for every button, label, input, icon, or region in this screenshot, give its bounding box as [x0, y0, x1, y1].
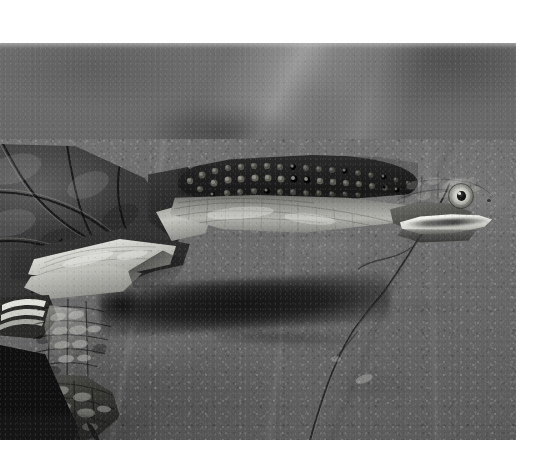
background-dark-blob-right	[330, 43, 516, 113]
eye-rim	[448, 183, 474, 209]
photo-top-edge-fade	[0, 43, 516, 49]
screenshot-canvas	[0, 0, 533, 470]
foreground-dark-gradient	[0, 415, 154, 440]
snake-necked-turtle-photograph	[0, 43, 516, 440]
